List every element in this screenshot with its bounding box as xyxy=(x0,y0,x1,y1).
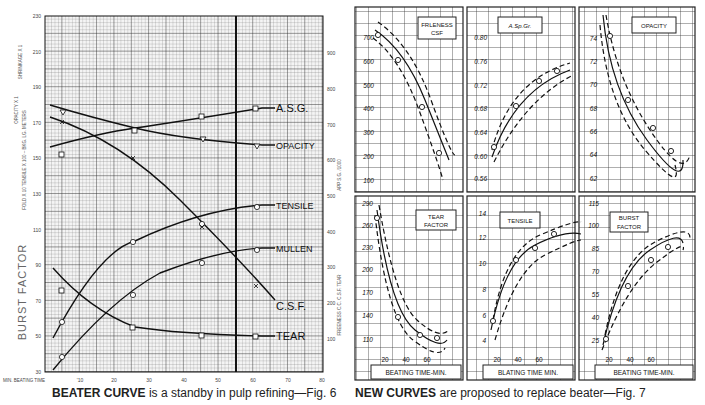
svg-text:500: 500 xyxy=(327,193,336,199)
svg-text:64: 64 xyxy=(590,151,598,158)
svg-text:0.56: 0.56 xyxy=(474,175,487,182)
opacity-axis-label: OPACITY X 1 xyxy=(14,96,19,124)
svg-text:74: 74 xyxy=(590,35,598,42)
svg-text:700: 700 xyxy=(327,122,336,128)
freeness-tear-label: FREENESS C.C. C.S.F. TEAR xyxy=(337,274,342,336)
svg-text:300: 300 xyxy=(363,129,374,136)
svg-text:230: 230 xyxy=(33,13,42,19)
svg-text:600: 600 xyxy=(327,157,336,163)
title-tear: TEAR xyxy=(428,214,445,220)
svg-text:150: 150 xyxy=(33,155,42,161)
svg-text:70: 70 xyxy=(592,268,600,275)
label-tensile: TENSILE xyxy=(276,201,314,211)
title-opacity: OPACITY xyxy=(641,23,667,29)
fold-tensile-label: FOLD X 10 TENSILE X 100 – BKG. LG. METER… xyxy=(22,110,27,210)
svg-text:40: 40 xyxy=(626,356,634,363)
x-title-tensile: BLATING TIME MIN. xyxy=(498,369,558,376)
svg-text:210: 210 xyxy=(33,49,42,55)
svg-text:90: 90 xyxy=(35,262,41,268)
svg-text:100: 100 xyxy=(363,177,374,184)
svg-text:62: 62 xyxy=(590,175,598,182)
title-freeness: FRLENESS xyxy=(421,22,453,28)
svg-text:900: 900 xyxy=(327,50,336,56)
svg-text:400: 400 xyxy=(327,229,336,235)
svg-text:0.72: 0.72 xyxy=(474,82,487,89)
svg-text:70: 70 xyxy=(285,377,291,383)
svg-text:85: 85 xyxy=(592,245,600,252)
svg-text:700: 700 xyxy=(363,34,374,41)
svg-text:6: 6 xyxy=(482,312,486,319)
left-y-ticks: 230210190 170150130 1109070 5030 xyxy=(33,13,42,375)
svg-text:8: 8 xyxy=(482,286,486,293)
svg-text:20: 20 xyxy=(381,356,389,363)
svg-text:40: 40 xyxy=(181,377,187,383)
svg-text:72: 72 xyxy=(590,58,598,65)
svg-text:20: 20 xyxy=(605,356,613,363)
svg-text:4: 4 xyxy=(482,337,486,344)
svg-text:100: 100 xyxy=(588,222,599,229)
svg-text:230: 230 xyxy=(361,244,373,251)
svg-text:190: 190 xyxy=(33,84,42,90)
svg-text:68: 68 xyxy=(590,105,598,112)
svg-text:25: 25 xyxy=(591,337,600,344)
fig7-caption: NEW CURVES are proposed to replace beate… xyxy=(355,386,646,400)
svg-text:115: 115 xyxy=(589,200,600,207)
beater-curve-chart: 230210190 170150130 1109070 5030 9008007… xyxy=(0,0,345,405)
svg-text:60: 60 xyxy=(535,356,543,363)
svg-text:66: 66 xyxy=(590,128,598,135)
svg-text:200: 200 xyxy=(327,300,336,306)
burst-factor-label: BURST FACTOR xyxy=(16,244,28,341)
svg-text:290: 290 xyxy=(361,200,373,207)
title-burst: BURST xyxy=(619,215,640,221)
label-mullen: MULLEN xyxy=(276,244,313,254)
x-ticks: '102030 405060 7080 xyxy=(77,377,325,383)
svg-text:'10: '10 xyxy=(77,377,84,383)
svg-text:12: 12 xyxy=(479,234,487,241)
svg-text:0.80: 0.80 xyxy=(474,34,487,41)
svg-text:20: 20 xyxy=(111,377,117,383)
svg-text:200: 200 xyxy=(361,266,373,273)
svg-text:60: 60 xyxy=(250,377,256,383)
svg-text:14: 14 xyxy=(479,210,487,217)
svg-text:55: 55 xyxy=(592,291,600,298)
grid xyxy=(45,16,323,372)
svg-text:400: 400 xyxy=(363,105,374,112)
svg-text:500: 500 xyxy=(363,82,374,89)
svg-text:300: 300 xyxy=(327,264,336,270)
svg-text:10: 10 xyxy=(479,260,487,267)
svg-text:130: 130 xyxy=(33,191,42,197)
right-y-ticks: 900800700 600500400 300200100 xyxy=(327,50,336,342)
shrinkage-label: SHRINKAGE X 1 xyxy=(18,44,23,79)
svg-text:70: 70 xyxy=(590,81,598,88)
svg-text:50: 50 xyxy=(215,377,221,383)
svg-text:200: 200 xyxy=(362,153,374,160)
app-sg-label: APP S.G. /1000 xyxy=(337,159,342,191)
svg-text:70: 70 xyxy=(35,298,41,304)
new-curves-chart: BEATING TIME-MIN. BLATING TIME MIN. BEAT… xyxy=(345,0,705,385)
x-axis-title: MIN. BEATING TIME xyxy=(3,378,45,383)
svg-text:80: 80 xyxy=(319,377,325,383)
svg-text:260: 260 xyxy=(361,222,373,229)
svg-text:30: 30 xyxy=(146,377,152,383)
svg-text:0.76: 0.76 xyxy=(474,58,487,65)
svg-text:100: 100 xyxy=(327,336,336,342)
label-opacity: OPACITY xyxy=(276,141,315,151)
fig6-caption: BEATER CURVE is a standby in pulp refini… xyxy=(52,386,336,400)
svg-text:600: 600 xyxy=(363,58,374,65)
svg-text:FACTOR: FACTOR xyxy=(617,224,642,230)
svg-text:50: 50 xyxy=(35,333,41,339)
svg-text:40: 40 xyxy=(514,356,522,363)
title-asg: A.Sp.Gr. xyxy=(508,23,532,29)
title-tensile: TENSILE xyxy=(507,218,532,224)
svg-text:20: 20 xyxy=(493,356,501,363)
svg-text:110: 110 xyxy=(33,227,41,233)
svg-text:CSF: CSF xyxy=(431,30,443,36)
svg-text:170: 170 xyxy=(362,289,373,296)
svg-text:0.64: 0.64 xyxy=(474,129,487,136)
svg-text:0.68: 0.68 xyxy=(474,105,487,112)
svg-text:140: 140 xyxy=(362,312,373,319)
x-title-burst: BEATING TIME-MIN. xyxy=(613,369,674,376)
label-asg: A.S.G. xyxy=(276,102,308,114)
svg-text:110: 110 xyxy=(363,336,374,343)
x-title-tear: BEATING TIME-MIN. xyxy=(385,369,446,376)
